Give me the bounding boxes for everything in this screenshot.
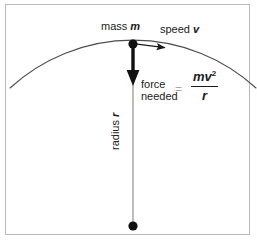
figure-root: mass m speed v force needed = mv2 r radi… [0,0,257,244]
formula-numerator-m: m [193,69,205,84]
label-mass-text: mass [101,20,127,32]
label-speed-text: speed [160,23,190,35]
label-speed: speed v [160,24,199,36]
formula-denominator: r [191,87,218,104]
label-mass: mass m [101,21,140,33]
velocity-arrow [137,44,165,47]
label-force-line2: needed [141,91,178,103]
formula-mv2-over-r: mv2 r [191,70,218,104]
diagram-canvas [0,0,257,244]
formula-numerator-v: v [205,69,212,84]
force-arrow [127,46,140,86]
label-mass-symbol: m [130,20,140,32]
label-force-needed: force needed [141,79,178,103]
label-radius-symbol: r [109,112,121,116]
formula-numerator: mv2 [191,70,218,86]
equals-sign: = [175,82,182,96]
formula-numerator-exponent: 2 [212,69,216,78]
label-radius-text: radius [109,120,121,150]
label-speed-symbol: v [193,23,199,35]
label-radius: radius r [109,112,121,150]
circle-center-point [128,221,137,230]
